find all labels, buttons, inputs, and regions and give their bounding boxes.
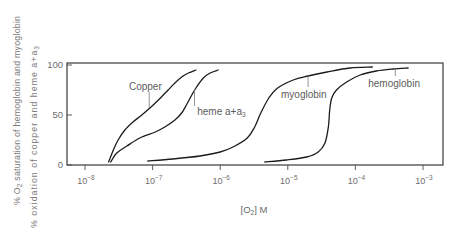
x-tick-label-exponent: −8: [87, 174, 95, 181]
x-tick-label-exponent: −4: [358, 174, 366, 181]
y-axis-title-line-2-pre: % oxidation of copper and heme a+a: [29, 51, 39, 228]
curve-label-subscript: 3: [242, 111, 246, 118]
x-tick-label: 10−8: [77, 174, 95, 186]
y-axis-title-line-1-pre: % O: [12, 187, 22, 205]
y-axis-title-line-2: % oxidation of copper and heme a+a3: [29, 46, 40, 228]
x-axis-title-pre: [O: [241, 204, 251, 215]
y-axis-title: % O2 saturation of hemoglobin and myoglo…: [12, 16, 40, 228]
y-tick-label: 0: [58, 159, 63, 170]
y-axis-title-line-1-post: saturation of hemoglobin and myoglobin: [12, 16, 22, 183]
curve-label-myoglobin: myoglobin: [281, 89, 327, 100]
x-tick-label-base: 10: [77, 176, 87, 186]
y-axis-title-line-1: % O2 saturation of hemoglobin and myoglo…: [12, 16, 23, 205]
x-tick-label-base: 10: [348, 176, 358, 186]
x-tick-label: 10−6: [212, 174, 230, 186]
curve-label-text: hemoglobin: [368, 78, 420, 89]
x-tick-label: 10−4: [348, 174, 366, 186]
y-axis-title-line-2-sub: 3: [33, 46, 40, 50]
x-tick-label-base: 10: [145, 176, 155, 186]
curve-label-heme-a-a3: heme a+a3: [197, 106, 246, 118]
x-tick-label-base: 10: [415, 176, 425, 186]
x-tick-label-exponent: −7: [155, 174, 163, 181]
x-axis-title-post: ] M: [254, 204, 267, 215]
x-tick-label-base: 10: [280, 176, 290, 186]
curve-label-hemoglobin: hemoglobin: [368, 78, 420, 89]
curve-label-copper: Copper: [129, 81, 162, 92]
x-tick-label-exponent: −6: [222, 174, 230, 181]
x-tick-label: 10−5: [280, 174, 298, 186]
curve-label-text: myoglobin: [281, 89, 327, 100]
y-tick-label: 100: [47, 59, 63, 70]
curve-label-text: heme a+a: [197, 106, 242, 117]
x-tick-label-base: 10: [212, 176, 222, 186]
curve-label-text: Copper: [129, 81, 162, 92]
plot-area: 10−810−710−610−510−410−3050100Copperheme…: [47, 59, 433, 186]
x-tick-label-exponent: −5: [290, 174, 298, 181]
y-tick-label: 50: [52, 109, 63, 120]
x-tick-label: 10−7: [145, 174, 163, 186]
x-tick-label-exponent: −3: [425, 174, 433, 181]
x-axis-title: [O2] M: [241, 204, 268, 216]
x-tick-label: 10−3: [415, 174, 433, 186]
chart: % O2 saturation of hemoglobin and myoglo…: [0, 0, 459, 233]
